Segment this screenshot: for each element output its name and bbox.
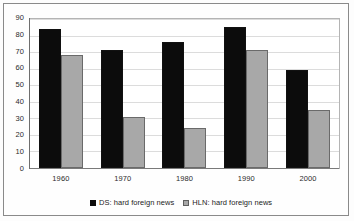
bar-chart: 0102030405060708090 19601970198019902000… (0, 0, 354, 221)
bar-group (277, 19, 339, 168)
chart-legend: DS: hard foreign newsHLN: hard foreign n… (86, 195, 276, 210)
y-tick-label: 70 (15, 48, 24, 56)
y-tick-label: 60 (15, 65, 24, 73)
x-tick-label: 1960 (30, 172, 92, 186)
bar-hln-1990 (246, 50, 268, 168)
legend-entry-hln: HLN: hard foreign news (183, 199, 272, 207)
bar-ds-2000 (286, 70, 308, 168)
bar-hln-2000 (308, 110, 330, 168)
y-tick-label: 50 (15, 81, 24, 89)
legend-swatch-icon (183, 200, 189, 206)
bar-hln-1970 (123, 117, 145, 168)
y-tick-label: 20 (15, 132, 24, 140)
chart-screenshot: 0102030405060708090 19601970198019902000… (0, 0, 354, 221)
bar-group (154, 19, 216, 168)
x-axis-tick-labels: 19601970198019902000 (30, 172, 339, 186)
x-tick-label: 1990 (215, 172, 277, 186)
y-tick-label: 30 (15, 115, 24, 123)
legend-swatch-icon (90, 200, 96, 206)
bar-hln-1960 (61, 55, 83, 168)
y-tick-label: 10 (15, 148, 24, 156)
bar-group (215, 19, 277, 168)
legend-label: HLN: hard foreign news (192, 199, 272, 207)
y-axis-tick-labels: 0102030405060708090 (0, 18, 27, 169)
x-tick-label: 1970 (92, 172, 154, 186)
legend-label: DS: hard foreign news (99, 199, 174, 207)
gridline (30, 168, 339, 169)
bar-ds-1970 (101, 50, 123, 168)
y-tick-label: 80 (15, 31, 24, 39)
legend-entry-ds: DS: hard foreign news (90, 199, 174, 207)
bar-ds-1980 (162, 42, 184, 168)
y-tick-label: 90 (15, 14, 24, 22)
x-tick-label: 2000 (277, 172, 339, 186)
bar-groups (30, 19, 339, 168)
bar-group (92, 19, 154, 168)
bar-hln-1980 (184, 128, 206, 168)
y-tick-label: 40 (15, 98, 24, 106)
bar-ds-1990 (224, 27, 246, 168)
bar-ds-1960 (39, 29, 61, 168)
bar-group (30, 19, 92, 168)
x-tick-label: 1980 (154, 172, 216, 186)
y-tick-label: 0 (20, 165, 24, 173)
